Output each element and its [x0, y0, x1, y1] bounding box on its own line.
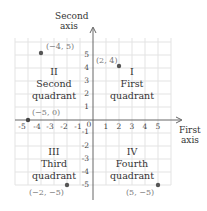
y-tick: -4 — [82, 167, 90, 176]
x-tick: -1 — [74, 122, 81, 131]
y-tick: 5 — [84, 50, 89, 59]
quadrant-name: quadrant — [110, 90, 154, 101]
quadrant-IV: IV Fourth quadrant — [110, 146, 154, 181]
quadrant-III: III Third quadrant — [32, 146, 76, 181]
y-tick: -1 — [82, 127, 89, 136]
y-axis-label-line2: axis — [60, 21, 78, 31]
x-tick: -4 — [33, 122, 41, 131]
point-label: (−2, −5) — [29, 188, 64, 197]
point-label: (−4, 5) — [46, 42, 74, 51]
quadrant-numeral: IV — [127, 146, 138, 157]
y-tick: -5 — [82, 180, 90, 189]
quadrant-II: II Second quadrant — [32, 66, 76, 101]
point-marker — [39, 51, 43, 55]
quadrant-I: I First quadrant — [110, 66, 154, 101]
quadrant-name: quadrant — [32, 170, 76, 181]
x-tick: 3 — [130, 122, 135, 131]
point-neg4-5: (−4, 5) — [39, 42, 74, 55]
point-marker — [156, 183, 160, 187]
quadrant-name: quadrant — [32, 90, 76, 101]
x-tick: 5 — [156, 122, 161, 131]
x-tick: 2 — [117, 122, 122, 131]
quadrant-name: Second — [36, 78, 71, 89]
x-tick: 1 — [104, 122, 109, 131]
y-axis — [90, 27, 96, 200]
y-tick: 4 — [84, 63, 89, 72]
quadrant-name: First — [121, 78, 144, 89]
x-tick: 4 — [143, 122, 148, 131]
y-tick: 2 — [84, 89, 89, 98]
y-tick: 3 — [84, 76, 89, 85]
x-tick: -3 — [46, 122, 54, 131]
y-tick: -3 — [82, 154, 90, 163]
y-tick: 1 — [84, 102, 89, 111]
x-tick: -5 — [18, 122, 26, 131]
point-marker — [26, 118, 30, 122]
coordinate-plane: Second axis First axis -5 -4 -3 -2 -1 1 … — [0, 0, 207, 211]
point-label: (5, −5) — [126, 188, 154, 197]
point-label: (−5, 0) — [32, 108, 60, 117]
quadrant-name: quadrant — [110, 170, 154, 181]
x-tick-labels: -5 -4 -3 -2 -1 1 2 3 4 5 0 — [18, 120, 160, 131]
quadrant-numeral: III — [48, 146, 60, 157]
y-tick: -2 — [82, 141, 90, 150]
point-marker — [65, 183, 69, 187]
x-axis-label-line2: axis — [181, 135, 199, 145]
quadrant-name: Fourth — [116, 158, 148, 169]
point-label: (2, 4) — [96, 56, 118, 65]
y-axis-label-line1: Second — [55, 11, 89, 21]
point-2-4: (2, 4) — [96, 56, 121, 68]
quadrant-name: Third — [41, 158, 67, 169]
x-tick: -2 — [60, 122, 68, 131]
quadrant-numeral: I — [130, 66, 134, 77]
quadrant-numeral: II — [50, 66, 58, 77]
x-axis-label-line1: First — [179, 125, 201, 135]
